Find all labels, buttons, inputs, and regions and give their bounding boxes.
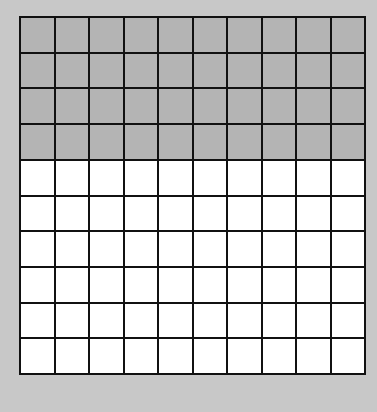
shaded-cell	[125, 18, 158, 52]
unshaded-cell	[21, 304, 54, 338]
shaded-cell	[56, 18, 89, 52]
hundred-grid	[19, 16, 366, 375]
shaded-cell	[90, 18, 123, 52]
unshaded-cell	[228, 304, 261, 338]
shaded-cell	[125, 89, 158, 123]
shaded-cell	[90, 89, 123, 123]
unshaded-cell	[125, 197, 158, 231]
unshaded-cell	[21, 161, 54, 195]
unshaded-cell	[90, 197, 123, 231]
unshaded-cell	[263, 304, 296, 338]
unshaded-cell	[90, 304, 123, 338]
unshaded-cell	[194, 232, 227, 266]
shaded-cell	[21, 89, 54, 123]
shaded-cell	[228, 89, 261, 123]
unshaded-cell	[159, 304, 192, 338]
shaded-cell	[21, 18, 54, 52]
unshaded-cell	[56, 339, 89, 373]
shaded-cell	[56, 125, 89, 159]
unshaded-cell	[90, 232, 123, 266]
unshaded-cell	[228, 161, 261, 195]
unshaded-cell	[332, 339, 365, 373]
shaded-cell	[21, 125, 54, 159]
unshaded-cell	[194, 197, 227, 231]
shaded-cell	[332, 54, 365, 88]
shaded-cell	[194, 89, 227, 123]
shaded-cell	[194, 18, 227, 52]
unshaded-cell	[194, 268, 227, 302]
shaded-cell	[228, 18, 261, 52]
unshaded-cell	[90, 161, 123, 195]
shaded-cell	[56, 54, 89, 88]
unshaded-cell	[90, 339, 123, 373]
unshaded-cell	[228, 268, 261, 302]
unshaded-cell	[125, 268, 158, 302]
unshaded-cell	[332, 268, 365, 302]
shaded-cell	[159, 89, 192, 123]
shaded-cell	[159, 125, 192, 159]
shaded-cell	[263, 89, 296, 123]
shaded-cell	[159, 54, 192, 88]
shaded-cell	[228, 54, 261, 88]
unshaded-cell	[125, 339, 158, 373]
shaded-cell	[125, 125, 158, 159]
shaded-cell	[332, 125, 365, 159]
unshaded-cell	[194, 161, 227, 195]
shaded-cell	[21, 54, 54, 88]
unshaded-cell	[297, 197, 330, 231]
unshaded-cell	[194, 339, 227, 373]
unshaded-cell	[228, 339, 261, 373]
shaded-cell	[297, 89, 330, 123]
shaded-cell	[56, 89, 89, 123]
unshaded-cell	[21, 339, 54, 373]
shaded-cell	[263, 18, 296, 52]
shaded-cell	[159, 18, 192, 52]
unshaded-cell	[332, 232, 365, 266]
unshaded-cell	[228, 197, 261, 231]
unshaded-cell	[297, 339, 330, 373]
unshaded-cell	[263, 161, 296, 195]
unshaded-cell	[125, 232, 158, 266]
unshaded-cell	[21, 197, 54, 231]
unshaded-cell	[297, 161, 330, 195]
shaded-cell	[297, 54, 330, 88]
unshaded-cell	[194, 304, 227, 338]
shaded-cell	[332, 18, 365, 52]
shaded-cell	[90, 125, 123, 159]
shaded-cell	[194, 125, 227, 159]
shaded-cell	[125, 54, 158, 88]
unshaded-cell	[159, 161, 192, 195]
shaded-cell	[263, 125, 296, 159]
unshaded-cell	[159, 232, 192, 266]
shaded-cell	[90, 54, 123, 88]
unshaded-cell	[263, 268, 296, 302]
shaded-cell	[194, 54, 227, 88]
unshaded-cell	[332, 161, 365, 195]
unshaded-cell	[90, 268, 123, 302]
shaded-cell	[297, 125, 330, 159]
unshaded-cell	[21, 268, 54, 302]
shaded-cell	[228, 125, 261, 159]
shaded-cell	[263, 54, 296, 88]
unshaded-cell	[125, 304, 158, 338]
unshaded-cell	[159, 197, 192, 231]
unshaded-cell	[56, 304, 89, 338]
unshaded-cell	[297, 268, 330, 302]
unshaded-cell	[332, 197, 365, 231]
unshaded-cell	[228, 232, 261, 266]
unshaded-cell	[263, 197, 296, 231]
unshaded-cell	[159, 268, 192, 302]
unshaded-cell	[56, 197, 89, 231]
shaded-cell	[332, 89, 365, 123]
unshaded-cell	[56, 232, 89, 266]
unshaded-cell	[263, 232, 296, 266]
unshaded-cell	[297, 232, 330, 266]
unshaded-cell	[159, 339, 192, 373]
unshaded-cell	[56, 268, 89, 302]
unshaded-cell	[297, 304, 330, 338]
shaded-cell	[297, 18, 330, 52]
unshaded-cell	[263, 339, 296, 373]
unshaded-cell	[21, 232, 54, 266]
unshaded-cell	[125, 161, 158, 195]
unshaded-cell	[56, 161, 89, 195]
